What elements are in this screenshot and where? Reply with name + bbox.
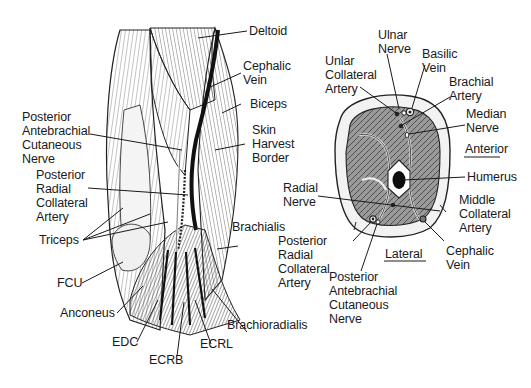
- label-triceps: Triceps: [39, 233, 79, 247]
- label-humerus: Humerus: [467, 170, 517, 184]
- label-lateral: Lateral: [385, 247, 423, 261]
- label-deltoid: Deltoid: [249, 24, 287, 38]
- label-middle-collateral-artery: Middle Collateral Artery: [459, 193, 511, 235]
- label-posterior-radial-collateral-artery-right: Posterior Radial Collateral Artery: [278, 234, 330, 290]
- label-brachialis: Brachialis: [232, 220, 285, 234]
- label-posterior-radial-collateral-artery-left: Posterior Radial Collateral Artery: [36, 168, 88, 224]
- label-ecrl: ECRL: [200, 337, 233, 351]
- label-ecrb: ECRB: [149, 353, 183, 367]
- label-radial-nerve: Radial Nerve: [283, 181, 318, 209]
- label-anterior: Anterior: [465, 142, 508, 156]
- label-anconeus: Anconeus: [60, 306, 115, 320]
- label-edc: EDC: [112, 335, 138, 349]
- label-cephalic-vein: Cephalic Vein: [243, 59, 291, 87]
- label-median-nerve: Median Nerve: [466, 107, 506, 135]
- label-posterior-antebrachial-cutaneous-nerve-left: Posterior Antebrachial Cutaneous Nerve: [22, 110, 90, 166]
- label-fcu: FCU: [57, 276, 82, 290]
- label-biceps: Biceps: [250, 97, 287, 111]
- label-brachioradialis: Brachioradialis: [227, 318, 307, 332]
- label-basilic-vein: Basilic Vein: [422, 47, 457, 75]
- anatomy-figure: Deltoid Cephalic Vein Biceps Skin Harves…: [0, 0, 531, 388]
- label-cephalic-vein-right: Cephalic Vein: [446, 244, 494, 272]
- arm-silhouette: [107, 28, 241, 335]
- label-skin-harvest-border: Skin Harvest Border: [252, 123, 294, 165]
- label-unlar-collateral-artery: Unlar Collateral Artery: [325, 54, 377, 96]
- label-brachial-artery: Brachial Artery: [449, 75, 493, 103]
- label-posterior-antebrachial-cutaneous-nerve-right: Posterior Antebrachial Cutaneous Nerve: [329, 270, 397, 326]
- label-ulnar-nerve: Ulnar Nerve: [378, 28, 411, 56]
- arm-cross-section: [335, 95, 450, 237]
